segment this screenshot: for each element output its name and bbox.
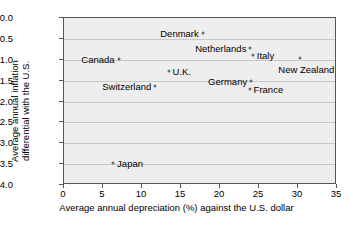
plot-area: DenmarkCanadaNetherlandsItalyNew Zealand… <box>63 17 336 184</box>
x-axis-tick-label: 25 <box>253 188 264 199</box>
x-axis-tick-mark <box>102 184 103 188</box>
y-axis-title-line1: Average annual inflation <box>9 21 20 201</box>
data-point <box>250 80 253 83</box>
data-point <box>249 47 252 50</box>
gridline <box>64 39 335 40</box>
data-point-label: France <box>254 84 284 95</box>
x-axis-tick-label: 5 <box>99 188 104 199</box>
y-axis-tick-mark <box>59 121 63 122</box>
x-axis-tick-mark <box>141 184 142 188</box>
gridline <box>64 164 335 165</box>
data-point-label: Switzerland <box>102 81 151 92</box>
y-axis-title: Average annual inflation differential wi… <box>9 21 31 201</box>
y-axis-title-line2: differential with the U.S. <box>20 21 31 201</box>
scatter-chart-figure: DenmarkCanadaNetherlandsItalyNew Zealand… <box>0 0 353 231</box>
data-point-label: U.K. <box>173 66 191 77</box>
data-point <box>251 54 254 57</box>
data-point <box>167 70 170 73</box>
gridline <box>64 102 335 103</box>
data-point <box>117 57 120 60</box>
data-point-label: Japan <box>117 157 143 168</box>
y-axis-tick-mark <box>59 163 63 164</box>
data-point-label: Canada <box>81 53 114 64</box>
gridline <box>64 143 335 144</box>
data-point-label: New Zealand <box>278 64 334 75</box>
x-axis-tick-label: 35 <box>331 188 342 199</box>
x-axis-title: Average annual depreciation (%) against … <box>0 202 353 213</box>
x-axis-tick-mark <box>258 184 259 188</box>
y-axis-tick-mark <box>59 101 63 102</box>
x-axis-tick-mark <box>297 184 298 188</box>
x-axis-tick-label: 0 <box>60 188 65 199</box>
data-point <box>112 161 115 164</box>
x-axis-tick-label: 30 <box>292 188 303 199</box>
x-axis-tick-mark <box>63 184 64 188</box>
data-point <box>248 88 251 91</box>
data-point-label: Netherlands <box>195 43 246 54</box>
y-axis-tick-mark <box>59 38 63 39</box>
x-axis-tick-mark <box>180 184 181 188</box>
data-point-label: Italy <box>257 50 274 61</box>
data-point <box>201 32 204 35</box>
x-axis-tick-mark <box>336 184 337 188</box>
y-axis-tick-mark <box>59 142 63 143</box>
data-point <box>154 85 157 88</box>
x-axis-tick-label: 10 <box>136 188 147 199</box>
data-point-label: Germany <box>208 76 247 87</box>
x-axis-tick-mark <box>219 184 220 188</box>
data-point-label: Denmark <box>160 28 199 39</box>
y-axis-tick-mark <box>59 17 63 18</box>
data-point <box>299 57 302 60</box>
y-axis-tick-mark <box>59 80 63 81</box>
x-axis-tick-label: 15 <box>175 188 186 199</box>
gridline <box>64 122 335 123</box>
x-axis-tick-label: 20 <box>214 188 225 199</box>
y-axis-tick-mark <box>59 59 63 60</box>
